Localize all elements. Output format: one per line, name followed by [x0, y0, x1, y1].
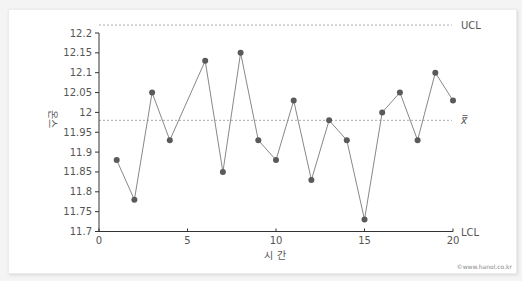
y-tick-label: 11.95: [63, 127, 92, 138]
x-tick-label: 15: [358, 235, 371, 246]
data-point: [344, 137, 350, 143]
reference-label: UCL: [461, 20, 481, 31]
data-point: [415, 137, 421, 143]
y-tick-label: 11.85: [63, 166, 92, 177]
data-point: [131, 197, 137, 203]
data-point: [379, 109, 385, 115]
data-point: [202, 58, 208, 64]
y-tick-label: 11.9: [70, 147, 92, 158]
data-point: [238, 50, 244, 56]
y-tick-label: 12.05: [63, 87, 92, 98]
data-point: [114, 157, 120, 163]
x-tick-label: 5: [184, 235, 190, 246]
y-tick-label: 11.7: [70, 226, 92, 237]
reference-label: x̿: [460, 115, 468, 126]
y-tick-label: 12.2: [70, 28, 92, 39]
data-point: [432, 70, 438, 76]
x-tick-label: 10: [270, 235, 283, 246]
data-point: [273, 157, 279, 163]
reference-label: LCL: [461, 227, 480, 238]
y-tick-label: 11.8: [70, 186, 92, 197]
control-chart: UCLx̿LCL11.711.7511.811.8511.911.951212.…: [0, 0, 522, 281]
y-tick-label: 12: [79, 107, 92, 118]
y-axis-title: 온스: [47, 110, 58, 128]
y-tick-label: 11.75: [63, 206, 92, 217]
y-tick-label: 12.15: [63, 47, 92, 58]
data-point: [220, 169, 226, 175]
data-point: [397, 90, 403, 96]
x-tick-label: 0: [96, 235, 102, 246]
x-tick-label: 20: [447, 235, 460, 246]
data-point: [450, 97, 456, 103]
data-point: [326, 117, 332, 123]
y-tick-label: 12.1: [70, 67, 92, 78]
data-line: [117, 53, 453, 220]
credit-text: ©www.hanol.co.kr: [457, 263, 512, 270]
data-point: [362, 217, 368, 223]
x-axis-title: 시 간: [264, 250, 285, 261]
data-point: [149, 90, 155, 96]
data-point: [291, 97, 297, 103]
data-point: [308, 177, 314, 183]
data-point: [167, 137, 173, 143]
data-point: [255, 137, 261, 143]
